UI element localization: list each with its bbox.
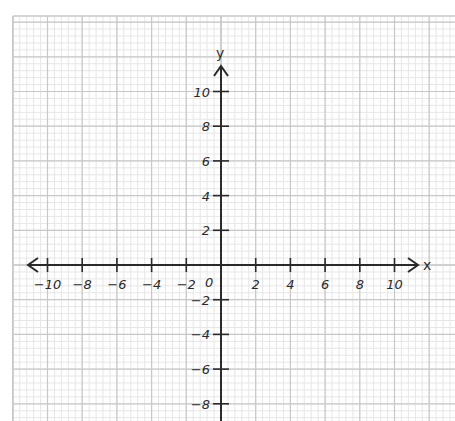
y-tick-label: −4 (191, 327, 210, 342)
x-axis-label: x (423, 257, 431, 273)
y-tick-label: 8 (202, 119, 210, 134)
y-axis-label: y (216, 45, 224, 61)
y-tick-label: 4 (202, 189, 210, 204)
x-tick-label: −6 (107, 277, 126, 292)
major-grid (13, 16, 455, 421)
x-tick-label: 8 (356, 277, 364, 292)
minor-grid (13, 16, 455, 421)
x-tick-label: −4 (142, 277, 161, 292)
x-tick-label: 2 (252, 277, 260, 292)
x-tick-label: 6 (321, 277, 329, 292)
y-tick-label: 6 (202, 154, 210, 169)
x-tick-label: −10 (34, 277, 61, 292)
y-tick-label: 2 (202, 223, 210, 238)
y-tick-label: −6 (191, 362, 210, 377)
origin-label: 0 (205, 275, 213, 290)
y-tick-label: 10 (193, 85, 210, 100)
x-tick-label: −8 (73, 277, 92, 292)
coordinate-plane: −10−8−6−4−2246810108642−2−4−6−8 x y 0 (0, 0, 455, 421)
y-tick-label: −8 (191, 397, 210, 412)
x-tick-label: −2 (177, 277, 196, 292)
y-tick-label: −2 (191, 293, 210, 308)
x-tick-label: 10 (386, 277, 403, 292)
x-tick-label: 4 (286, 277, 294, 292)
